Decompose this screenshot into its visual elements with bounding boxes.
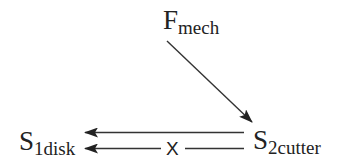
node-f-mech-sub: mech: [178, 17, 219, 38]
edge-fmech-to-s2cutter: [167, 41, 252, 122]
node-s-2cutter-sub: 2cutter: [268, 137, 321, 158]
node-f-mech: Fmech: [163, 7, 219, 34]
block-x-marker: X: [166, 139, 179, 158]
node-s-1disk-main: S: [19, 126, 34, 156]
node-s-1disk-sub: 1disk: [34, 138, 75, 159]
node-s-1disk: S1disk: [19, 128, 75, 155]
node-s-2cutter-main: S: [253, 125, 268, 155]
node-f-mech-main: F: [163, 5, 178, 35]
node-s-2cutter: S2cutter: [253, 127, 321, 154]
diagram-canvas: Fmech S1disk S2cutter X: [0, 0, 349, 166]
